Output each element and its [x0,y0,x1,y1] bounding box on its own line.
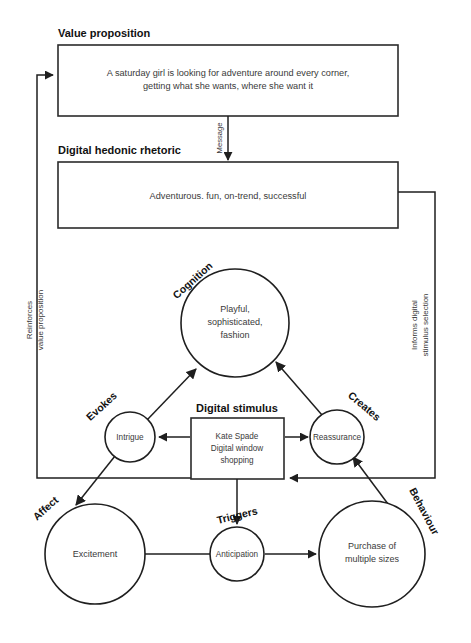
value-proposition-line1: A saturday girl is looking for adventure… [107,68,350,78]
digital-stimulus-line2: Digital window [211,444,263,453]
message-label: Message [215,123,224,154]
digital-stimulus-line3: shopping [220,456,254,465]
excitement-label: Excitement [73,549,118,559]
value-proposition-line2: getting what she wants, where she want i… [143,81,314,91]
purchase-line2: multiple sizes [345,554,400,564]
cognition-line1: Playful, [220,304,250,314]
anticipation-label: Anticipation [216,550,259,559]
digital-hedonic-rhetoric-heading: Digital hedonic rhetoric [58,144,181,156]
cognition-line3: fashion [220,330,249,340]
cognition-line2: sophisticated, [207,317,262,327]
intrigue-label: Intrigue [116,433,144,442]
purchase-line1: Purchase of [348,541,397,551]
informs-label-line1: Informs digital [410,300,419,350]
reinforces-label-line2: value proposition [36,290,45,350]
reinforces-label-line1: Reinforces [25,301,34,339]
digital-stimulus-heading: Digital stimulus [196,402,278,414]
digital-stimulus-line1: Kate Spade [216,432,259,441]
informs-label-line2: stimulus selection [421,293,430,356]
reassurance-label: Reassurance [313,433,362,442]
digital-hedonic-rhetoric-line1: Adventurous. fun, on-trend, successful [150,191,307,201]
value-proposition-heading: Value proposition [58,27,151,39]
conceptual-model-diagram: Value proposition A saturday girl is loo… [0,0,471,643]
